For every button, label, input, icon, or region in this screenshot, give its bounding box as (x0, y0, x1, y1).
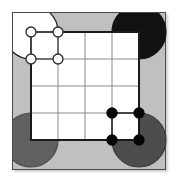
node-marker (26, 54, 36, 64)
node-marker (134, 135, 144, 145)
node-marker (107, 135, 117, 145)
node-marker (53, 27, 63, 37)
board-frame (12, 12, 166, 170)
node-marker (134, 108, 144, 118)
node-marker (53, 54, 63, 64)
figure-root (0, 0, 180, 186)
board-inner (13, 13, 167, 171)
node-marker (107, 108, 117, 118)
node-marker (26, 27, 36, 37)
board-diagram (13, 13, 167, 171)
